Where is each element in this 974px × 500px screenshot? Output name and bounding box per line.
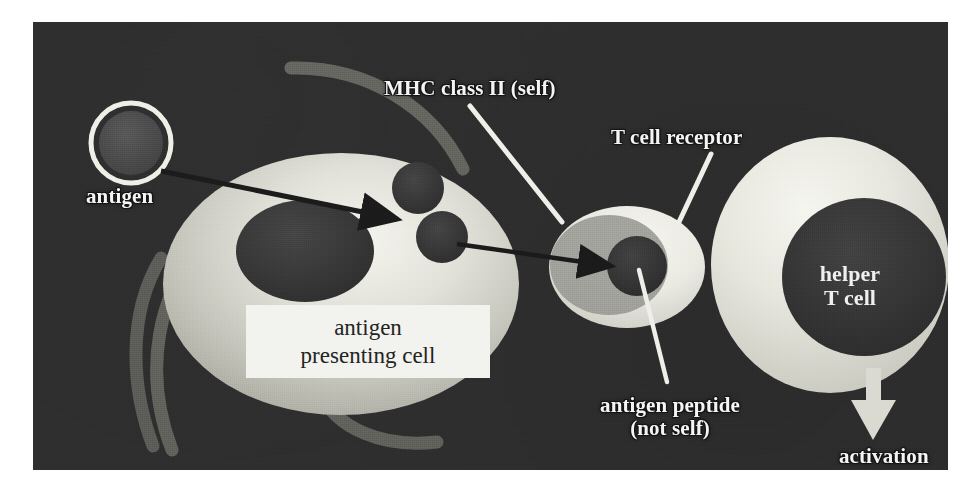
antigen-peptide-icon [607,236,667,296]
tcr-leader-line [679,154,711,222]
antigen-particle [91,103,171,183]
label-antigen-peptide-line2: (not self) [630,416,710,440]
figure-stage: antigen MHC class II (self) T cell recep… [0,0,974,500]
label-apc-line2: presenting cell [301,342,436,369]
apc-vesicle-lower [416,211,468,263]
label-antigen-peptide: antigen peptide (not self) [600,394,740,439]
label-mhc-class-ii: MHC class II (self) [384,77,556,100]
diagram-frame: antigen MHC class II (self) T cell recep… [33,22,948,470]
apc-nucleus [236,200,374,302]
label-helper-t-cell-line2: T cell [824,285,876,310]
label-activation: activation [839,445,929,468]
label-apc-line1: antigen [334,314,402,341]
label-antigen: antigen [86,185,153,208]
apc-vesicle-upper [392,162,444,214]
antigen-core [99,111,163,175]
label-antigen-presenting-cell: antigen presenting cell [246,305,490,378]
label-helper-t-cell: helper T cell [820,262,880,310]
label-t-cell-receptor: T cell receptor [611,126,742,149]
mhc-leader-line [470,106,562,222]
label-antigen-peptide-line1: antigen peptide [600,393,740,417]
label-helper-t-cell-line1: helper [820,261,880,286]
mhc-class-ii-complex [549,206,705,328]
